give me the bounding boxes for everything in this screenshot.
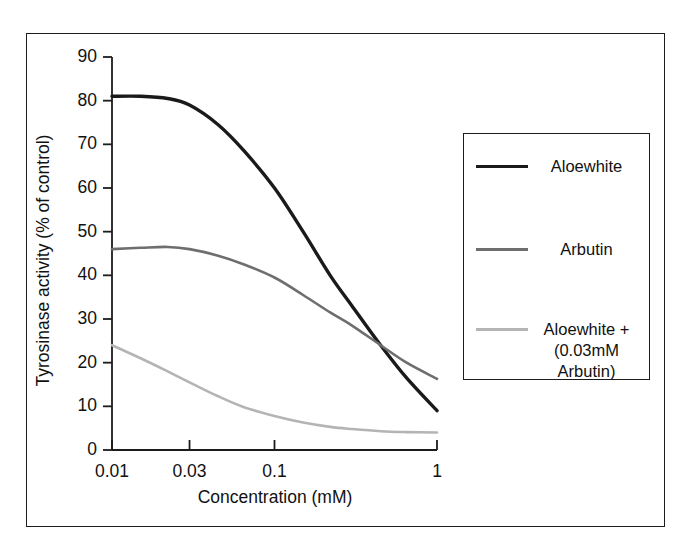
- legend-label: Aloewhite +(0.03mMArbutin): [528, 319, 651, 381]
- legend-line-swatch: [476, 328, 528, 331]
- legend-item-2[interactable]: Arbutin: [464, 239, 651, 260]
- legend-label: Aloewhite: [528, 156, 651, 177]
- legend-label: Arbutin: [528, 239, 651, 260]
- axis-lines: [112, 57, 437, 450]
- figure-container: Tyrosinase activity (% of control) Conce…: [0, 0, 686, 557]
- legend-item-1[interactable]: Aloewhite: [464, 156, 651, 177]
- legend-line-swatch: [476, 248, 528, 251]
- legend-line-swatch: [476, 165, 528, 168]
- legend-item-3[interactable]: Aloewhite +(0.03mMArbutin): [464, 319, 651, 381]
- series-line-1: [112, 96, 437, 411]
- series-line-3: [112, 345, 437, 432]
- legend: AloewhiteArbutinAloewhite +(0.03mMArbuti…: [463, 133, 650, 380]
- series-line-2: [112, 247, 437, 379]
- data-series-layer: [112, 96, 437, 432]
- y-axis-ticks: [103, 57, 112, 450]
- x-axis-ticks: [112, 440, 437, 450]
